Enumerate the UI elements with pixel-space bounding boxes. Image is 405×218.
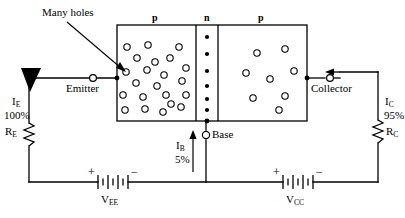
emitter-current-arrow (21, 68, 41, 92)
collector-resistor-symbol (373, 120, 383, 143)
collector-label: Collector (311, 83, 352, 94)
region-label-base-n: n (204, 13, 210, 23)
collector-node-dot (305, 76, 310, 81)
emitter-resistor-label: RE (5, 126, 17, 137)
vcc-subscript: CC (294, 198, 304, 207)
vee-plus-sign: + (88, 166, 95, 178)
vee-subscript: EE (109, 198, 118, 207)
emitter-label: Emitter (66, 83, 99, 94)
electron (205, 69, 209, 73)
collector-resistor-subscript: C (393, 130, 398, 139)
region-label-emitter-p: p (152, 13, 158, 23)
circuit-diagram-svg (0, 0, 405, 218)
emitter-resistor-symbol (24, 123, 34, 146)
emitter-current-percent: 100% (4, 110, 30, 121)
electron (205, 35, 209, 39)
vee-symbol: V (101, 193, 109, 205)
electron (205, 108, 209, 112)
base-current-subscript: B (180, 144, 185, 153)
vee-minus-sign: − (131, 166, 138, 178)
collector-current-label: IC (385, 96, 394, 107)
electron (205, 97, 209, 101)
electron (205, 119, 210, 124)
collector-current-subscript: C (389, 100, 394, 109)
collector-terminal-circle[interactable] (327, 75, 334, 82)
collector-current-percent: 95% (384, 110, 404, 121)
collector-current-arrow (325, 69, 340, 76)
base-label: Base (212, 129, 233, 140)
vee-label: VEE (101, 194, 118, 205)
vcc-symbol: V (286, 193, 294, 205)
base-current-percent: 5% (175, 154, 190, 165)
emitter-node-dot (115, 76, 120, 81)
vcc-plus-sign: + (273, 166, 280, 178)
electron (205, 52, 209, 56)
electron (205, 84, 209, 88)
collector-battery-symbol (283, 175, 313, 189)
base-current-arrow (189, 130, 196, 172)
base-current-label: IB (176, 140, 185, 151)
emitter-current-label: IE (12, 96, 20, 107)
vcc-label: VCC (286, 194, 304, 205)
base-terminal-circle[interactable] (202, 131, 209, 138)
many-holes-annotation: Many holes (42, 7, 94, 18)
diagram-canvas: Many holes p n p Emitter Base Collector … (0, 0, 405, 218)
emitter-current-subscript: E (16, 100, 21, 109)
emitter-terminal-circle[interactable] (90, 75, 97, 82)
emitter-resistor-subscript: E (12, 130, 17, 139)
vcc-minus-sign: − (316, 166, 323, 178)
collector-resistor-label: RC (386, 126, 398, 137)
region-label-collector-p: p (258, 13, 264, 23)
emitter-battery-symbol (98, 175, 128, 189)
